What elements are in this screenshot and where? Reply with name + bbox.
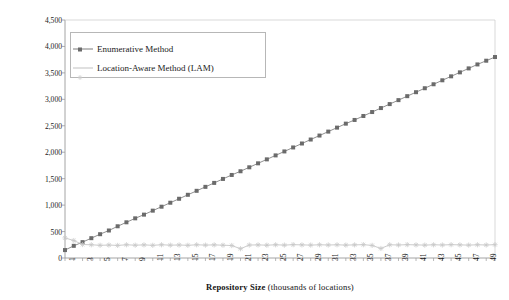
x-tick-label: 9 <box>138 257 147 261</box>
x-tick-label: 1 <box>68 257 77 261</box>
x-tick-label: 35 <box>366 254 375 261</box>
x-tick-label: 15 <box>191 254 200 261</box>
x-tick-label: 27 <box>296 254 305 261</box>
legend-item: Location-Aware Method (LAM) <box>97 61 214 75</box>
x-tick-label: 23 <box>261 254 270 261</box>
x-axis-title-sub: (thousands of locations) <box>265 282 353 292</box>
x-tick-label: 7 <box>121 257 130 261</box>
chart-legend: Enumerative MethodLocation-Aware Method … <box>70 32 266 78</box>
x-tick-label: 19 <box>226 254 235 261</box>
x-tick-label: 41 <box>419 254 428 261</box>
x-tick-label: 47 <box>472 254 481 261</box>
x-tick-label: 13 <box>173 254 182 261</box>
chart-figure: Resultset Completion Time (milliseconds)… <box>0 0 509 300</box>
legend-marker-glyph <box>78 66 83 71</box>
x-tick-label: 37 <box>384 254 393 261</box>
x-axis-title: Repository Size (thousands of locations) <box>65 282 495 292</box>
x-tick-label: 29 <box>314 254 323 261</box>
x-tick-label: 31 <box>331 254 340 261</box>
legend-item: Enumerative Method <box>97 42 173 56</box>
legend-square-marker-icon <box>73 49 93 50</box>
legend-label: Location-Aware Method (LAM) <box>97 63 214 73</box>
x-tick-label: 3 <box>86 257 95 261</box>
x-tick-label: 21 <box>244 254 253 261</box>
legend-marker-glyph <box>78 47 82 51</box>
x-tick-label: 11 <box>156 254 165 261</box>
x-tick-label: 45 <box>454 254 463 261</box>
legend-star-marker-icon <box>73 68 93 69</box>
x-axis-title-main: Repository Size <box>206 282 265 292</box>
x-tick-label: 5 <box>103 257 112 261</box>
x-tick-label: 17 <box>208 254 217 261</box>
x-tick-label: 33 <box>349 254 358 261</box>
x-tick-label: 25 <box>279 254 288 261</box>
x-tick-label: 43 <box>437 254 446 261</box>
x-tick-label: 39 <box>401 254 410 261</box>
x-tick-label: 49 <box>489 254 498 261</box>
legend-label: Enumerative Method <box>97 44 173 54</box>
